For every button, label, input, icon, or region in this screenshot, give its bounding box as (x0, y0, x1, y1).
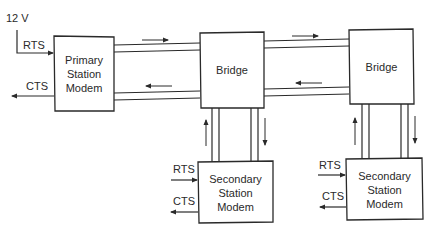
secondary1-line-2: Station (218, 186, 252, 200)
secondary1-line-3: Modem (217, 200, 254, 214)
secondary2-cts-label: CTS (322, 190, 344, 203)
secondary1-rts-label: RTS (173, 163, 195, 176)
secondary2-line-1: Secondary (358, 169, 411, 183)
secondary1-modem-text: Secondary Station Modem (198, 162, 273, 223)
bridge2-text: Bridge (349, 29, 414, 104)
secondary2-rts-label: RTS (319, 159, 341, 172)
secondary1-cts-label: CTS (173, 195, 195, 208)
secondary2-modem-text: Secondary Station Modem (346, 159, 423, 220)
bridge2-label: Bridge (366, 60, 398, 74)
supply-voltage-label: 12 V (6, 12, 29, 25)
primary-rts-label: RTS (23, 39, 45, 52)
primary-line-2: Station (67, 67, 101, 81)
primary-line-1: Primary (65, 53, 103, 67)
channel-bridge1-secondary1 (206, 108, 265, 162)
primary-cts-label: CTS (26, 80, 48, 93)
primary-modem-text: Primary Station Modem (54, 36, 114, 111)
secondary2-line-2: Station (367, 183, 401, 197)
channel-bridge1-bridge2 (264, 36, 349, 96)
channel-primary-bridge1 (114, 40, 200, 100)
bridge1-label: Bridge (216, 63, 248, 77)
channel-bridge2-secondary2 (355, 104, 415, 159)
bridge1-text: Bridge (200, 32, 264, 108)
secondary1-line-1: Secondary (209, 172, 262, 186)
primary-line-3: Modem (66, 81, 103, 95)
secondary2-line-3: Modem (366, 197, 403, 211)
